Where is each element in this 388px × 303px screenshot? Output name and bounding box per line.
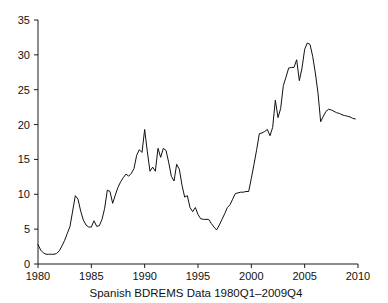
y-tick-label: 10 bbox=[18, 188, 30, 200]
y-axis: 05101520253035 bbox=[18, 14, 38, 270]
x-axis-title: Spanish BDREMS Data 1980Q1–2009Q4 bbox=[90, 287, 303, 299]
y-tick-label: 5 bbox=[24, 223, 30, 235]
chart-container: 05101520253035 1980198519901995200020052… bbox=[0, 0, 388, 303]
x-tick-label: 1990 bbox=[132, 270, 156, 282]
x-tick-label: 1980 bbox=[26, 270, 50, 282]
x-axis: 1980198519901995200020052010 bbox=[26, 264, 370, 282]
y-tick-label: 20 bbox=[18, 119, 30, 131]
y-tick-label: 25 bbox=[18, 84, 30, 96]
x-tick-label: 2000 bbox=[239, 270, 263, 282]
y-tick-label: 35 bbox=[18, 14, 30, 26]
x-axis-ticks: 1980198519901995200020052010 bbox=[26, 264, 370, 282]
y-tick-label: 30 bbox=[18, 49, 30, 61]
x-tick-label: 2005 bbox=[292, 270, 316, 282]
x-tick-label: 1985 bbox=[79, 270, 103, 282]
line-chart: 05101520253035 1980198519901995200020052… bbox=[0, 0, 388, 303]
x-tick-label: 1995 bbox=[186, 270, 210, 282]
data-series-line bbox=[38, 43, 355, 254]
y-tick-label: 0 bbox=[24, 258, 30, 270]
x-tick-label: 2010 bbox=[346, 270, 370, 282]
y-tick-label: 15 bbox=[18, 153, 30, 165]
y-axis-ticks: 05101520253035 bbox=[18, 14, 38, 270]
